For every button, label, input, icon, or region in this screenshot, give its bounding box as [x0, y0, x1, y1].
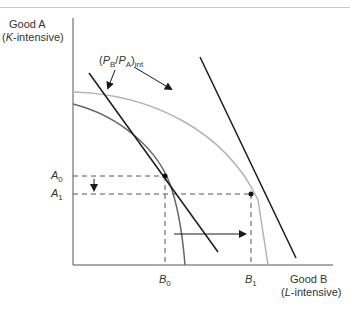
- tick-a1: A1: [51, 187, 63, 204]
- equilibrium-point-1: [249, 192, 254, 197]
- x-axis-label-line1: Good B: [290, 273, 327, 286]
- ppf-diagram: [0, 0, 350, 311]
- y-axis-label-line2: (K-intensive): [2, 31, 64, 44]
- price-line-new: [200, 57, 296, 258]
- y-axis-label-line1: Good A: [9, 18, 46, 31]
- ppf-new-curve: [73, 92, 268, 265]
- label-arrow-left: [108, 70, 115, 88]
- price-line-initial: [89, 73, 218, 252]
- x-axis-label-line2: (L-intensive): [281, 286, 342, 299]
- price-ratio-label: (PB/PA)int: [99, 54, 143, 71]
- tick-b0: B0: [159, 273, 171, 290]
- equilibrium-point-0: [163, 174, 168, 179]
- tick-a0: A0: [51, 169, 63, 186]
- tick-b1: B1: [245, 273, 257, 290]
